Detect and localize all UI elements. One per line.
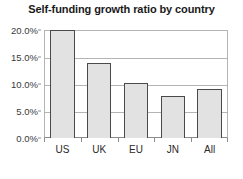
y-tick-label: 5.0% <box>16 106 38 117</box>
y-tick-label: 0.0% <box>16 133 38 144</box>
bar-jn <box>161 96 185 138</box>
x-tick-mark <box>81 138 82 142</box>
x-tick-mark <box>154 138 155 142</box>
x-tick-label-jn: JN <box>167 144 179 155</box>
x-axis: USUKEUJNAll <box>44 144 228 160</box>
y-tick-mark <box>38 111 41 112</box>
chart-title: Self-funding growth ratio by country <box>0 3 243 15</box>
x-tick-label-eu: EU <box>129 144 143 155</box>
bar-eu <box>124 83 148 138</box>
x-axis-ticks <box>44 138 228 143</box>
x-tick-mark <box>191 138 192 142</box>
bars-series <box>44 30 228 138</box>
y-tick-mark <box>38 30 41 31</box>
y-tick-mark <box>38 57 41 58</box>
x-tick-mark <box>227 138 228 142</box>
bar-chart: Self-funding growth ratio by country 20.… <box>0 0 243 179</box>
bar-uk <box>87 63 111 138</box>
bar-all <box>197 89 221 138</box>
y-tick-label: 20.0% <box>11 25 38 36</box>
x-tick-label-all: All <box>204 144 215 155</box>
y-tick-label: 15.0% <box>11 52 38 63</box>
y-tick-mark <box>38 84 41 85</box>
x-tick-label-us: US <box>55 144 69 155</box>
bar-us <box>50 30 74 138</box>
x-tick-mark <box>118 138 119 142</box>
y-tick-label: 10.0% <box>11 79 38 90</box>
y-axis: 20.0%15.0%10.0%5.0%0.0% <box>0 30 41 138</box>
x-tick-mark <box>44 138 45 142</box>
x-tick-label-uk: UK <box>92 144 106 155</box>
y-tick-mark <box>38 138 41 139</box>
